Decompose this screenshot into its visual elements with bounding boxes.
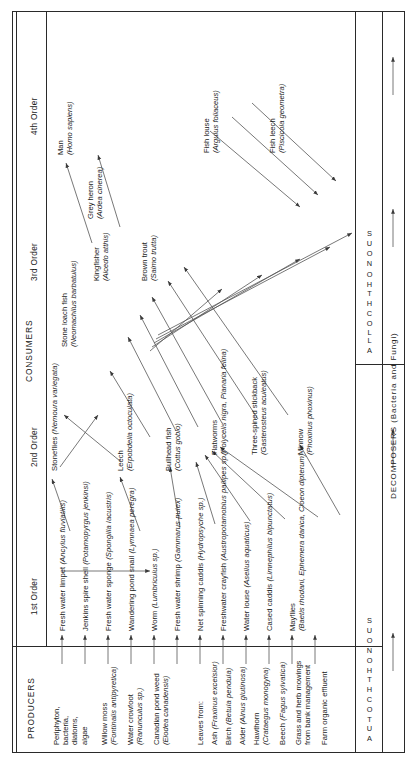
food-web-diagram: PRODUCERS CONSUMERS DECOMPOSERS (Bacteri…	[0, 0, 415, 767]
consumer-man-latin: (Homo sapiens)	[65, 101, 74, 155]
fourth-order-column: Man (Homo sapiens)	[0, 0, 415, 767]
consumer-man: Man (Homo sapiens)	[56, 101, 74, 155]
consumer-man-common: Man	[56, 101, 65, 155]
